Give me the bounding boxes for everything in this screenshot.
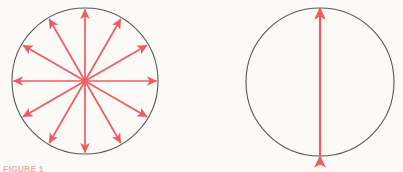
radial-arrow [85, 81, 147, 117]
panel-polarized-light [246, 8, 394, 156]
radial-arrow [85, 81, 121, 143]
radial-arrow-group [13, 9, 156, 152]
radial-arrow [49, 81, 85, 143]
figure-svg [0, 0, 403, 172]
center-point [83, 79, 88, 84]
radial-arrow [85, 45, 147, 81]
panel-unpolarized-light [12, 8, 158, 154]
radial-arrow [23, 81, 85, 117]
figure-container: FIGURE 1 [0, 0, 403, 172]
radial-arrow [23, 45, 85, 81]
radial-arrow [49, 19, 85, 81]
radial-arrow [85, 19, 121, 81]
